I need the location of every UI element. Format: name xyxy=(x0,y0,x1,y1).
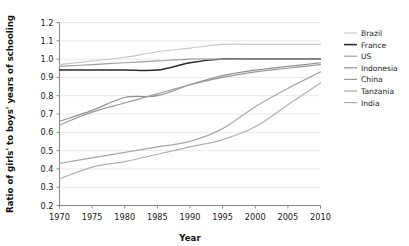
series-line-brazil xyxy=(60,44,321,64)
legend-label-brazil: Brazil xyxy=(361,29,382,38)
svg-text:Year: Year xyxy=(178,233,201,243)
x-tick-label: 2010 xyxy=(310,212,331,222)
y-tick-label: 0.4 xyxy=(40,164,53,174)
chart-legend: BrazilFranceUSIndonesiaChinaTanzaniaIndi… xyxy=(344,29,398,108)
x-tick-label: 1980 xyxy=(114,212,135,222)
x-tick-label: 1975 xyxy=(82,212,103,222)
x-tick-label: 1970 xyxy=(49,212,70,222)
legend-label-china: China xyxy=(361,75,383,84)
data-series-group xyxy=(60,44,321,179)
x-tick-label: 2000 xyxy=(245,212,266,222)
series-line-tanzania xyxy=(60,72,321,164)
legend-label-france: France xyxy=(361,41,387,50)
y-tick-label: 0.7 xyxy=(40,109,53,119)
y-tick-label: 1.1 xyxy=(40,36,53,46)
y-axis-title: Ratio of girls' to boys' years of school… xyxy=(5,15,15,213)
series-line-india xyxy=(60,83,321,179)
y-tick-label: 0.5 xyxy=(40,146,53,156)
y-tick-label: 1.0 xyxy=(40,54,53,64)
y-tick-label: 0.8 xyxy=(40,91,53,101)
line-chart-figure: 0.20.30.40.50.60.70.80.91.01.11.2 197019… xyxy=(0,0,409,246)
legend-label-india: India xyxy=(361,99,380,108)
y-tick-label: 0.3 xyxy=(40,182,53,192)
series-line-china xyxy=(60,65,321,125)
svg-text:Ratio of girls' to boys' years: Ratio of girls' to boys' years of school… xyxy=(5,15,15,213)
x-tick-labels: 197019751980198519901995200020052010 xyxy=(49,212,331,222)
y-tick-label: 0.6 xyxy=(40,127,53,137)
x-tick-label: 2005 xyxy=(277,212,298,222)
y-tick-label: 1.2 xyxy=(40,18,53,28)
y-tick-label: 0.2 xyxy=(40,201,53,211)
x-tick-label: 1985 xyxy=(147,212,168,222)
chart-container: 0.20.30.40.50.60.70.80.91.01.11.2 197019… xyxy=(0,0,409,246)
legend-label-indonesia: Indonesia xyxy=(361,64,398,73)
legend-label-tanzania: Tanzania xyxy=(360,87,394,96)
tick-marks xyxy=(57,23,321,209)
legend-label-us: US xyxy=(361,52,372,61)
x-axis-title: Year xyxy=(178,233,201,243)
y-tick-label: 0.9 xyxy=(40,72,53,82)
grid-lines xyxy=(60,23,321,206)
y-tick-labels: 0.20.30.40.50.60.70.80.91.01.11.2 xyxy=(40,18,53,211)
x-tick-label: 1990 xyxy=(180,212,201,222)
x-tick-label: 1995 xyxy=(212,212,233,222)
